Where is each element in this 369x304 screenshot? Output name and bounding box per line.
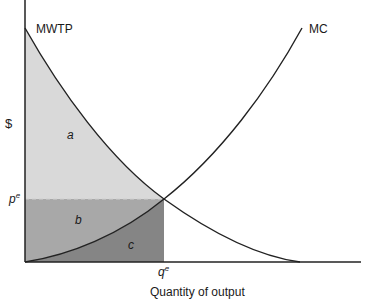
region-c-label: c	[128, 238, 134, 252]
x-axis-label: Quantity of output	[150, 285, 245, 299]
region-a-label: a	[67, 128, 74, 142]
mwtp-label: MWTP	[36, 22, 73, 36]
price-equilibrium-label: pe	[8, 191, 21, 206]
mc-label: MC	[309, 22, 328, 36]
quantity-equilibrium-label: qe	[158, 264, 170, 279]
y-axis-label: $	[5, 116, 13, 131]
region-b-label: b	[75, 213, 82, 227]
region-a	[25, 28, 164, 199]
diagram-canvas: MWTP MC $ a b c pe qe Quantity of output	[0, 0, 369, 304]
